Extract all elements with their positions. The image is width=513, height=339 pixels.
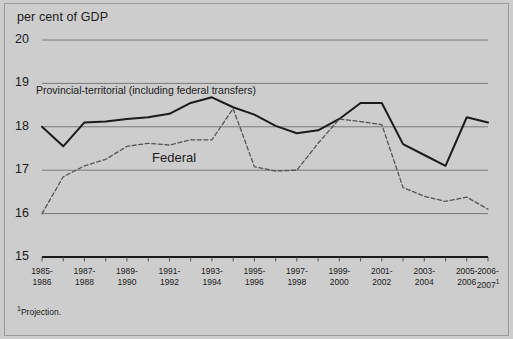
x-tick-footnote-marker: 1 <box>496 278 500 285</box>
x-tick-label-line2: 1988 <box>67 277 101 288</box>
x-tick-label-line2: 1994 <box>195 277 229 288</box>
x-tick-label-line2: 2000 <box>322 277 356 288</box>
x-tick-label: 1985-1986 <box>25 266 59 287</box>
x-tick-label: 1997-1998 <box>280 266 314 287</box>
y-tick-label: 20 <box>15 32 37 46</box>
y-tick-label: 15 <box>15 249 37 263</box>
y-tick-label: 17 <box>15 162 37 176</box>
x-tick-label-line2: 2004 <box>407 277 441 288</box>
x-tick-label-line2: 1990 <box>110 277 144 288</box>
x-tick-label: 2006-20071 <box>471 266 505 290</box>
footnote: 1Projection. <box>17 305 61 317</box>
x-tick-label-line2: 1996 <box>237 277 271 288</box>
y-tick-label: 19 <box>15 75 37 89</box>
chart-figure: per cent of GDP 201918171615 Provincial-… <box>0 0 513 339</box>
x-tick-label-line1: 1985- <box>25 266 59 277</box>
series-label-provincial-territorial: Provincial-territorial (including federa… <box>36 84 256 96</box>
x-tick-label: 1993-1994 <box>195 266 229 287</box>
x-tick-label-line1: 1997- <box>280 266 314 277</box>
x-tick-label: 1999-2000 <box>322 266 356 287</box>
x-tick-label-line2: 2002 <box>365 277 399 288</box>
x-tick-label: 1991-1992 <box>152 266 186 287</box>
x-tick-label-line1: 1995- <box>237 266 271 277</box>
x-tick-label-line1: 1999- <box>322 266 356 277</box>
x-tick-label: 2003-2004 <box>407 266 441 287</box>
x-tick-label: 1995-1996 <box>237 266 271 287</box>
y-tick-label: 16 <box>15 206 37 220</box>
footnote-text: Projection. <box>21 307 61 317</box>
x-tick-label-line1: 1993- <box>195 266 229 277</box>
y-axis-title: per cent of GDP <box>17 10 108 24</box>
x-tick-label-line1: 2001- <box>365 266 399 277</box>
y-tick-label: 18 <box>15 119 37 133</box>
x-tick-label-line2: 20071 <box>471 277 505 290</box>
x-tick-label: 2001-2002 <box>365 266 399 287</box>
x-tick-label-line1: 2003- <box>407 266 441 277</box>
x-tick-label-line2: 1992 <box>152 277 186 288</box>
series-label-federal: Federal <box>152 150 196 165</box>
x-tick-label: 1987-1988 <box>67 266 101 287</box>
x-tick-label-line1: 1991- <box>152 266 186 277</box>
x-tick-label-line2: 1986 <box>25 277 59 288</box>
x-tick-label-line1: 2006- <box>471 266 505 277</box>
x-tick-label-line2: 1998 <box>280 277 314 288</box>
x-tick-label-line1: 1987- <box>67 266 101 277</box>
x-tick-label-line1: 1989- <box>110 266 144 277</box>
x-tick-label: 1989-1990 <box>110 266 144 287</box>
